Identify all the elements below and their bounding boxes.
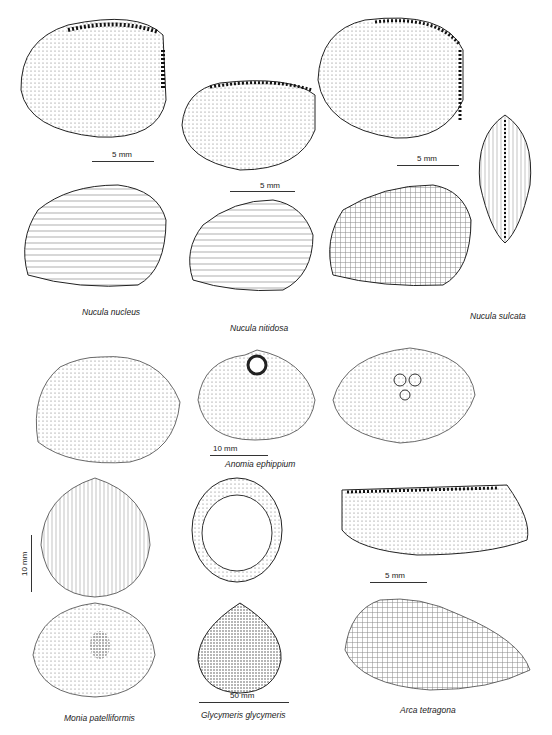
nucula-nucleus-interior-illustration [18,10,168,140]
scale-bar [230,191,295,192]
species-label: Arca tetragona [400,705,456,715]
scale-label: 5 mm [385,571,405,580]
glycymeris-glycymeris-interior-illustration [190,475,285,585]
nucula-nitidosa-exterior-illustration [183,195,318,295]
scale-bar [199,702,289,703]
scale-label: 5 mm [112,150,132,159]
species-label: Nucula nitidosa [230,323,288,333]
nucula-nucleus-exterior-illustration [18,180,168,290]
arca-tetragona-exterior-illustration [340,595,535,695]
species-label: Nucula sulcata [470,311,526,321]
nucula-sulcata-interior-illustration [315,10,465,140]
species-label: Anomia ephippium [225,459,295,469]
nucula-sulcata-dorsal-illustration [475,115,535,245]
arca-tetragona-interior-illustration [337,480,537,560]
scale-bar [210,455,268,456]
monia-patelliformis-lower-illustration [30,600,160,700]
glycymeris-glycymeris-exterior-illustration [195,600,285,695]
species-label: Nucula nucleus [82,307,140,317]
scale-label: 10 mm [213,444,237,453]
scale-bar [397,165,459,166]
nucula-nitidosa-interior-illustration [180,75,320,175]
anomia-ephippium-center-illustration [195,345,320,445]
species-label: Glycymeris glycymeris [201,710,286,720]
anomia-ephippium-left-illustration [30,352,182,467]
scale-bar [370,582,427,583]
species-label: Monia patelliformis [64,713,135,723]
scale-label: 50 mm [230,691,254,700]
scale-label: 5 mm [260,181,280,190]
scale-label: 10 mm [20,552,29,576]
anomia-ephippium-right-illustration [330,345,480,445]
monia-patelliformis-upper-illustration [38,475,153,600]
scale-label: 5 mm [417,154,437,163]
scale-bar [92,161,154,162]
nucula-sulcata-exterior-illustration [323,180,473,290]
scale-bar-vertical [31,535,32,592]
